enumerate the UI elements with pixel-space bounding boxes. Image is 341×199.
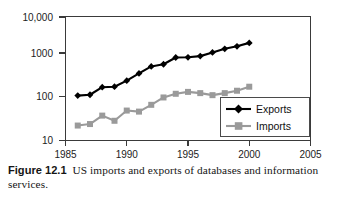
data-point-imports-1990 [124,108,130,114]
caption-figure-number: Figure 12.1 [8,164,67,176]
y-axis-ticks [59,17,66,141]
data-point-imports-1996 [197,90,203,96]
data-point-imports-1994 [173,91,179,97]
data-point-exports-1989 [111,83,118,90]
data-point-imports-2000 [246,84,252,90]
x-axis-tick-labels: 1985 1990 1995 2000 2005 [54,149,322,160]
data-point-exports-2000 [246,39,253,46]
data-point-imports-1989 [112,118,118,124]
x-tick-label-1985: 1985 [54,149,77,160]
data-point-exports-1995 [185,54,192,61]
legend-label-imports: Imports [256,120,291,132]
line-chart: 10,000 1000 100 10 [0,0,341,162]
x-tick-label-1995: 1995 [177,149,200,160]
data-point-imports-1991 [136,109,142,115]
y-tick-label-10: 10 [42,135,54,146]
y-axis-tick-labels: 10,000 1000 100 10 [22,12,53,146]
y-tick-label-1000: 1000 [31,48,54,59]
data-point-imports-1987 [87,121,93,127]
data-point-imports-1997 [210,92,216,98]
x-tick-label-1990: 1990 [116,149,139,160]
data-point-imports-1992 [148,102,154,108]
x-tick-label-2000: 2000 [238,149,261,160]
data-point-exports-1986 [74,92,81,99]
legend-label-exports: Exports [256,103,292,115]
data-point-imports-1999 [234,88,240,94]
x-tick-label-2005: 2005 [299,149,322,160]
series-markers-exports [74,39,252,99]
data-point-imports-1993 [161,94,167,100]
y-tick-label-100: 100 [36,91,53,102]
data-point-exports-1998 [221,45,228,52]
x-axis-ticks [66,141,311,147]
data-point-exports-1999 [234,43,241,50]
figure-caption: Figure 12.1 US imports and exports of da… [8,163,333,192]
data-point-imports-1998 [222,90,228,96]
y-tick-label-10000: 10,000 [22,12,53,23]
legend-marker-imports-square-icon [235,122,243,130]
chart-area: 10,000 1000 100 10 [0,0,341,162]
figure-container: 10,000 1000 100 10 [0,0,341,199]
data-point-exports-1997 [209,49,216,56]
data-point-exports-1996 [197,53,204,60]
data-point-imports-1995 [185,89,191,95]
data-point-imports-1986 [75,123,81,129]
data-point-imports-1988 [99,113,105,119]
chart-legend[interactable]: Exports Imports [221,98,310,137]
